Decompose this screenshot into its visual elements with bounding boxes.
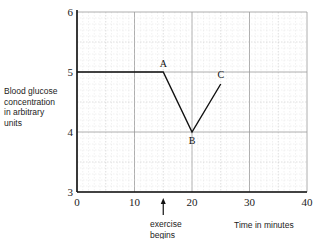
y-tick-label: 5 (68, 66, 74, 78)
annotation-line: begins (150, 230, 190, 240)
tick-labels: 0102030403456 (68, 6, 314, 208)
x-tick-label: 10 (129, 196, 141, 208)
point-label-b: B (189, 135, 196, 146)
y-axis-label-line: Blood glucose (4, 86, 74, 97)
x-tick-label: 30 (244, 196, 256, 208)
point-label-a: A (160, 58, 168, 69)
y-axis-label-line: in arbitrary (4, 107, 74, 118)
annotation-line: exercise (150, 219, 190, 230)
y-tick-label: 6 (68, 6, 74, 18)
point-label-c: C (217, 69, 224, 80)
y-tick-label: 3 (68, 186, 74, 198)
x-tick-label: 40 (302, 196, 314, 208)
x-tick-label: 0 (74, 196, 80, 208)
exercise-arrow-icon (161, 198, 166, 215)
y-axis-label-line: concentration (4, 97, 74, 108)
exercise-begins-annotation: exercise begins (150, 219, 190, 239)
y-axis-label: Blood glucose concentration in arbitrary… (4, 86, 74, 128)
y-axis-label-line: units (4, 118, 74, 129)
grid (77, 12, 307, 192)
x-axis-label: Time in minutes (234, 220, 294, 230)
x-tick-label: 20 (187, 196, 199, 208)
